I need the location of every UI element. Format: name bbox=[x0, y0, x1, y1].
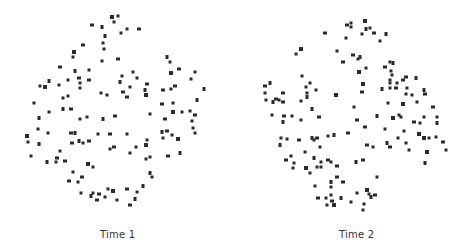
dot bbox=[80, 192, 83, 195]
dot bbox=[396, 82, 399, 85]
dot bbox=[80, 176, 84, 179]
dot bbox=[291, 115, 294, 118]
dot bbox=[271, 114, 274, 117]
dot bbox=[435, 136, 438, 139]
dot bbox=[278, 99, 281, 102]
dot bbox=[67, 95, 70, 98]
dot bbox=[189, 110, 192, 113]
dot bbox=[376, 114, 379, 118]
dot bbox=[58, 66, 62, 69]
dot-pattern-canvas bbox=[0, 0, 468, 251]
dot bbox=[135, 146, 138, 149]
dot bbox=[109, 148, 112, 151]
dot bbox=[356, 192, 359, 195]
dot bbox=[379, 40, 382, 43]
dot bbox=[134, 197, 137, 201]
dot bbox=[81, 44, 85, 47]
time-2-dot-cluster bbox=[263, 19, 448, 212]
dot bbox=[90, 24, 94, 27]
dot bbox=[110, 15, 114, 19]
dot bbox=[192, 127, 195, 130]
dot bbox=[309, 82, 312, 85]
dot bbox=[193, 114, 197, 117]
dot bbox=[362, 209, 365, 212]
dot bbox=[357, 70, 361, 74]
dot bbox=[129, 152, 132, 155]
dot bbox=[372, 146, 375, 149]
dot bbox=[401, 79, 405, 82]
dot bbox=[88, 69, 91, 72]
dot bbox=[304, 151, 307, 154]
dot bbox=[326, 204, 329, 207]
dot bbox=[445, 149, 448, 152]
dot bbox=[345, 37, 348, 40]
dot bbox=[149, 156, 152, 159]
time-2-label: Time 2 bbox=[339, 229, 374, 240]
dot bbox=[390, 70, 393, 73]
dot bbox=[48, 79, 51, 83]
dot bbox=[116, 199, 119, 202]
dot bbox=[383, 66, 387, 69]
dot bbox=[67, 180, 71, 183]
dot bbox=[345, 24, 349, 27]
dot bbox=[103, 48, 106, 51]
dot bbox=[136, 77, 139, 80]
dot bbox=[144, 93, 148, 97]
dot bbox=[129, 86, 132, 89]
dot bbox=[149, 171, 152, 175]
dot bbox=[330, 180, 333, 184]
dot bbox=[403, 130, 406, 133]
dot bbox=[334, 93, 338, 97]
dot bbox=[74, 131, 77, 135]
dot bbox=[369, 27, 372, 30]
dot bbox=[319, 146, 322, 149]
dot bbox=[102, 117, 105, 121]
dot bbox=[72, 50, 76, 54]
dot bbox=[163, 118, 167, 121]
dot bbox=[166, 155, 170, 158]
dot bbox=[424, 161, 427, 165]
dot bbox=[86, 162, 90, 166]
dot bbox=[82, 142, 85, 145]
dot bbox=[169, 61, 172, 64]
dot bbox=[108, 133, 112, 136]
dot bbox=[194, 71, 197, 74]
dot bbox=[428, 137, 431, 140]
dot bbox=[391, 74, 394, 77]
dot bbox=[304, 166, 308, 170]
dot bbox=[30, 155, 33, 158]
dot bbox=[292, 167, 295, 170]
dot bbox=[290, 155, 293, 158]
dot bbox=[170, 88, 173, 91]
dot bbox=[264, 92, 267, 95]
dot bbox=[327, 135, 330, 138]
dot bbox=[340, 196, 343, 200]
dot bbox=[176, 137, 180, 141]
dot bbox=[431, 106, 435, 109]
dot bbox=[196, 98, 199, 102]
dot bbox=[79, 118, 82, 121]
dot bbox=[92, 166, 95, 169]
dot bbox=[397, 137, 400, 140]
dot bbox=[117, 15, 120, 18]
dot bbox=[355, 119, 359, 122]
dot bbox=[121, 75, 124, 78]
dot bbox=[436, 116, 439, 119]
dot bbox=[333, 133, 336, 137]
dot bbox=[297, 139, 301, 142]
dot bbox=[69, 108, 73, 111]
dot bbox=[389, 87, 392, 90]
dot bbox=[86, 116, 89, 119]
dot bbox=[160, 103, 164, 106]
dot bbox=[295, 53, 298, 56]
dot bbox=[363, 126, 367, 129]
dot bbox=[293, 162, 296, 165]
dot bbox=[27, 141, 30, 144]
dot bbox=[74, 69, 77, 73]
dot bbox=[38, 142, 41, 146]
dot bbox=[357, 58, 360, 61]
dot bbox=[125, 96, 129, 99]
dot bbox=[411, 94, 414, 97]
dot bbox=[313, 156, 316, 160]
dot bbox=[423, 88, 426, 92]
